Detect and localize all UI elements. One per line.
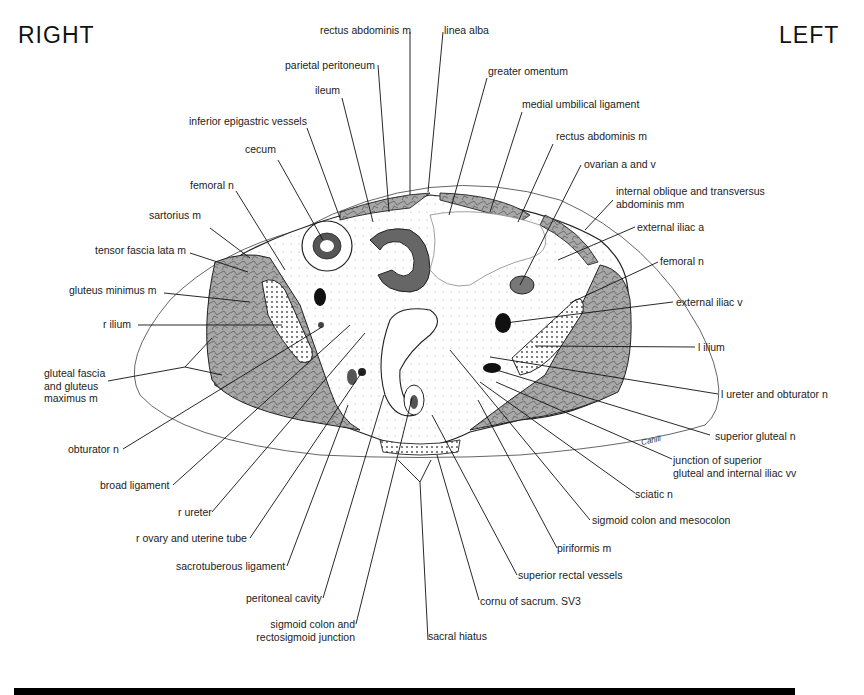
label-rectus-abdominis-left: rectus abdominis m [556,130,647,143]
label-r-ilium: r ilium [103,318,131,331]
label-l-ilium: l ilium [698,341,725,354]
label-superior-rectal-vessels: superior rectal vessels [518,569,622,582]
label-tensor-fascia-lata: tensor fascia lata m [95,244,186,257]
label-superior-gluteal-n: superior gluteal n [715,430,796,443]
label-junction-superior-gluteal: junction of superior gluteal and interna… [673,454,796,479]
label-internal-oblique: internal oblique and transversus abdomin… [616,185,765,210]
label-external-iliac-a: external iliac a [637,221,704,234]
left-ureter [483,363,501,373]
label-sciatic-n: sciatic n [635,488,673,501]
label-inferior-epigastric-vessels: inferior epigastric vessels [189,115,307,128]
label-r-ureter: r ureter [178,506,212,519]
label-gluteal-fascia: gluteal fascia and gluteus maximus m [44,367,105,405]
pelvis-cross-section-drawing [0,0,864,695]
label-ovarian-a-v: ovarian a and v [584,158,656,171]
right-external-iliac-v [314,288,326,306]
footer-bar [14,688,795,695]
label-femoral-n-left: femoral n [660,255,704,268]
label-sigmoid-rectosigmoid: sigmoid colon and rectosigmoid junction [253,618,355,643]
label-sigmoid-mesocolon: sigmoid colon and mesocolon [592,514,730,527]
label-piriformis: piriformis m [557,542,611,555]
label-rectus-abdominis-top: rectus abdominis m [320,24,411,37]
label-cecum: cecum [245,143,276,156]
label-ileum: ileum [315,84,340,97]
label-medial-umbilical-ligament: medial umbilical ligament [522,98,639,111]
label-cornu-sacrum: cornu of sacrum. SV3 [480,595,581,608]
label-sartorius: sartorius m [149,209,201,222]
label-sacral-hiatus: sacral hiatus [428,630,487,643]
label-parietal-peritoneum: parietal peritoneum [285,59,375,72]
label-obturator-n: obturator n [68,443,119,456]
label-femoral-n-right: femoral n [190,179,234,192]
label-sacrotuberous-ligament: sacrotuberous ligament [176,560,285,573]
label-greater-omentum: greater omentum [488,65,568,78]
ovarian-vessel-shape [510,276,534,294]
label-linea-alba: linea alba [444,24,489,37]
label-external-iliac-v: external iliac v [676,296,743,309]
label-gluteus-minimus: gluteus minimus m [69,284,157,297]
label-peritoneal-cavity: peritoneal cavity [246,592,322,605]
label-r-ovary-uterine-tube: r ovary and uterine tube [136,532,247,545]
label-broad-ligament: broad ligament [100,479,169,492]
label-l-ureter-obturator: l ureter and obturator n [721,388,828,401]
